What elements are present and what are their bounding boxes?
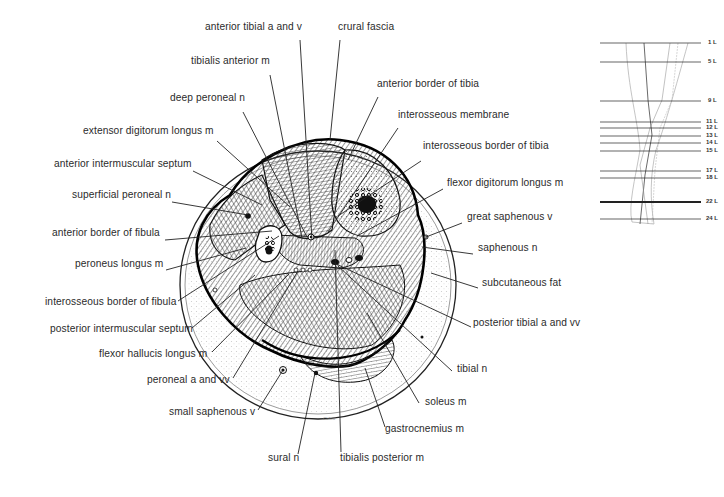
label-small-saphenous-v: small saphenous v [169,406,255,418]
leader-line-crural-fascia [330,40,340,140]
leg-level-reference-diagram [626,43,688,224]
label-tibial-n: tibial n [457,363,487,375]
label-anterior-intermuscular-septum: anterior intermuscular septum [54,158,192,170]
level-label-15L: 15 L [706,147,718,154]
label-peroneus-longus-m: peroneus longus m [75,258,163,270]
level-label-17L: 17 L [706,167,718,174]
label-anterior-border-of-tibia: anterior border of tibia [377,78,479,90]
label-tibialis-anterior-m: tibialis anterior m [191,55,270,67]
label-soleus-m: soleus m [425,396,467,408]
label-sural-n: sural n [268,452,299,464]
artist-signature: Cahill [323,416,336,421]
label-posterior-intermuscular-septum: posterior intermuscular septum [50,323,193,335]
label-interosseous-border-of-tibia: interosseous border of tibia [423,140,549,152]
level-lines [600,43,701,219]
label-superficial-peroneal-n: superficial peroneal n [72,189,171,201]
label-flexor-digitorum-longus-m: flexor digitorum longus m [447,177,563,189]
level-label-14L: 14 L [706,139,718,146]
leg-cross-section-drawing: Cahill [0,0,724,497]
level-label-5L: 5 L [708,58,717,65]
level-label-18L: 18 L [706,174,718,181]
label-gastrocnemius-m: gastrocnemius m [385,423,464,435]
label-posterior-tibial-a-and-vv: posterior tibial a and vv [473,317,580,329]
label-deep-peroneal-n: deep peroneal n [170,92,245,104]
level-label-9L: 9 L [708,97,717,104]
level-label-12L: 12 L [706,124,718,131]
label-tibialis-posterior-m: tibialis posterior m [340,452,424,464]
label-anterior-tibial-a-and-v: anterior tibial a and v [205,21,302,33]
level-label-22L: 22 L [706,198,718,205]
level-label-13L: 13 L [706,132,718,139]
label-interosseous-membrane: interosseous membrane [398,109,509,121]
label-extensor-digitorum-longus-m: extensor digitorum longus m [83,125,214,137]
label-great-saphenous-v: great saphenous v [467,211,553,223]
level-label-24L: 24 L [706,215,718,222]
anatomy-figure: Cahill anterior tibial a and v crural fa… [0,0,724,497]
label-peroneal-a-and-vv: peroneal a and vv [147,374,230,386]
label-interosseous-border-of-fibula: interosseous border of fibula [45,296,176,308]
label-saphenous-n: saphenous n [478,242,537,254]
label-crural-fascia: crural fascia [338,21,394,33]
label-anterior-border-of-fibula: anterior border of fibula [52,227,160,239]
label-subcutaneous-fat: subcutaneous fat [482,277,561,289]
level-label-1L: 1 L [708,39,717,46]
label-flexor-hallucis-longus-m: flexor hallucis longus m [99,348,207,360]
